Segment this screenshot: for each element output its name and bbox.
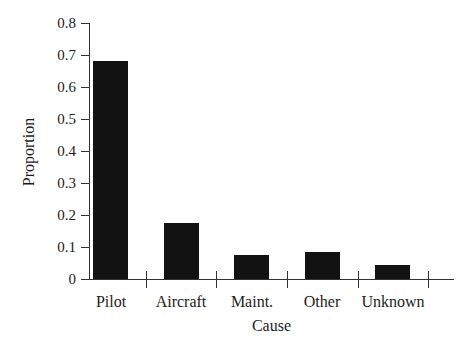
y-tick-0.5 xyxy=(81,119,89,120)
x-tick-5 xyxy=(428,271,429,288)
y-tick-label-0.1: 0.1 xyxy=(30,238,76,256)
x-axis-line xyxy=(89,279,454,280)
y-tick-0.8 xyxy=(81,23,89,24)
y-tick-label-0.7: 0.7 xyxy=(30,46,76,64)
x-category-label-unknown: Unknown xyxy=(348,292,438,311)
y-tick-0.6 xyxy=(81,87,89,88)
x-tick-4 xyxy=(358,271,359,288)
y-tick-0.2 xyxy=(81,215,89,216)
bar-chart-figure: Proportion 00.10.20.30.40.50.60.70.8Pilo… xyxy=(0,0,472,354)
bar-maint xyxy=(234,255,269,279)
bar-aircraft xyxy=(164,223,199,279)
y-tick-label-0.3: 0.3 xyxy=(30,174,76,192)
y-tick-0.4 xyxy=(81,151,89,152)
x-axis-title: Cause xyxy=(89,317,454,335)
bar-pilot xyxy=(93,61,128,279)
y-tick-label-0.8: 0.8 xyxy=(30,14,76,32)
y-tick-0.3 xyxy=(81,183,89,184)
y-tick-label-0.6: 0.6 xyxy=(30,78,76,96)
x-tick-1 xyxy=(146,271,147,288)
y-tick-0 xyxy=(81,279,89,280)
y-tick-0.1 xyxy=(81,247,89,248)
bar-other xyxy=(305,252,340,279)
x-tick-3 xyxy=(287,271,288,288)
bar-unknown xyxy=(375,265,410,279)
x-tick-2 xyxy=(216,271,217,288)
y-tick-0.7 xyxy=(81,55,89,56)
y-axis-line xyxy=(89,23,90,280)
y-tick-label-0.5: 0.5 xyxy=(30,110,76,128)
y-tick-label-0: 0 xyxy=(30,270,76,288)
y-tick-label-0.4: 0.4 xyxy=(30,142,76,160)
y-tick-label-0.2: 0.2 xyxy=(30,206,76,224)
